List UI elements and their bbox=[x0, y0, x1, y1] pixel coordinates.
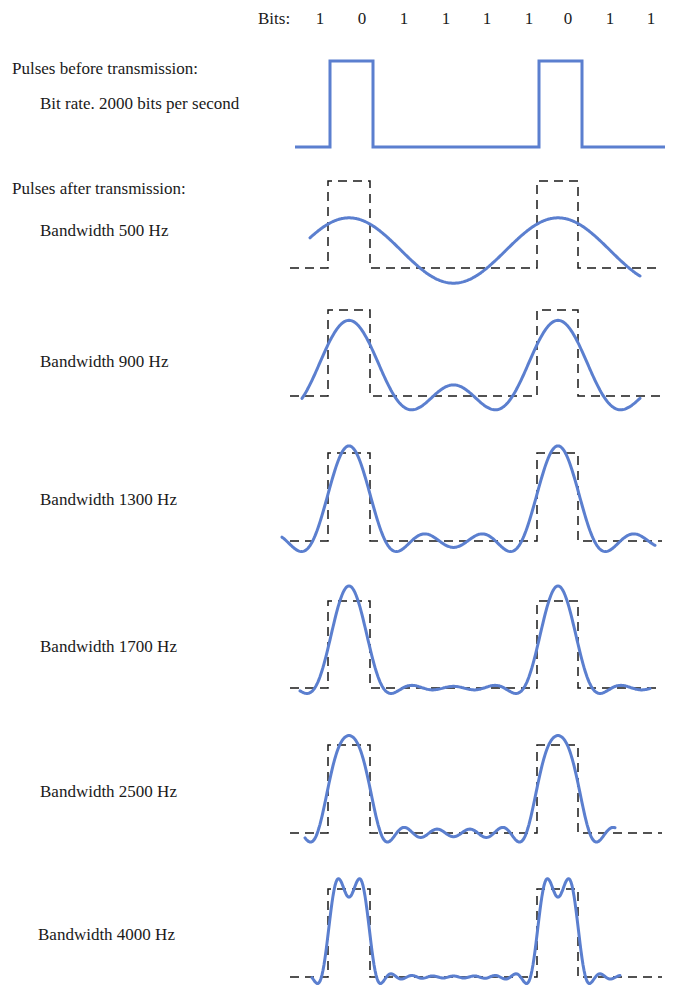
reference-pulse bbox=[290, 181, 662, 268]
reference-pulse bbox=[290, 601, 662, 688]
filtered-signal-curve bbox=[305, 736, 615, 843]
filtered-signal-curve bbox=[310, 218, 640, 283]
filtered-panels bbox=[282, 181, 662, 983]
reference-pulse bbox=[290, 889, 662, 977]
filtered-signal-curve bbox=[282, 446, 655, 552]
reference-pulse bbox=[290, 745, 662, 833]
filtered-signal-curve bbox=[312, 879, 620, 984]
waveform-diagram bbox=[0, 0, 695, 1007]
reference-pulse bbox=[290, 453, 662, 541]
original-pulse-train bbox=[295, 61, 665, 147]
filtered-signal-curve bbox=[300, 586, 650, 694]
reference-pulse bbox=[290, 310, 662, 396]
